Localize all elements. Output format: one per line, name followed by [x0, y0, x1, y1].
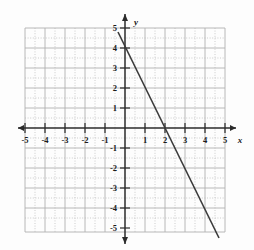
y-tick-label-neg2: -2	[110, 163, 117, 173]
y-axis-up-arrow-icon	[122, 14, 128, 21]
x-axis	[18, 125, 236, 131]
y-tick-label-1: 1	[113, 103, 117, 113]
x-axis-left-arrow-icon	[18, 125, 24, 131]
y-tick-label-5: 5	[113, 23, 117, 33]
y-tick-label-3: 3	[113, 63, 117, 73]
y-tick-label-neg4: -4	[110, 203, 118, 213]
x-tick-label-5: 5	[223, 135, 227, 145]
x-tick-label-4: 4	[203, 135, 208, 145]
x-tick-label-neg4: -4	[41, 135, 49, 145]
x-axis-right-arrow-icon	[230, 125, 236, 131]
x-tick-label-neg5: -5	[21, 135, 28, 145]
x-tick-label-neg1: -1	[101, 135, 108, 145]
y-axis-down-arrow-icon	[122, 237, 128, 244]
y-axis-name-label: y	[133, 17, 139, 27]
coordinate-plane-svg: -5 -4 -3 -2 -1 1 2 3 4 5 5 4 3 2 1 -1 -2…	[0, 0, 254, 250]
y-tick-label-2: 2	[113, 83, 117, 93]
x-tick-label-neg2: -2	[81, 135, 88, 145]
y-tick-label-neg3: -3	[110, 183, 117, 193]
y-tick-label-neg1: -1	[110, 143, 117, 153]
x-tick-label-2: 2	[163, 135, 167, 145]
coordinate-plane-figure: -5 -4 -3 -2 -1 1 2 3 4 5 5 4 3 2 1 -1 -2…	[0, 0, 254, 250]
x-axis-name-label: x	[237, 135, 243, 145]
x-tick-label-1: 1	[143, 135, 147, 145]
x-tick-label-3: 3	[183, 135, 187, 145]
x-tick-label-neg3: -3	[61, 135, 68, 145]
y-tick-label-neg5: -5	[110, 223, 117, 233]
